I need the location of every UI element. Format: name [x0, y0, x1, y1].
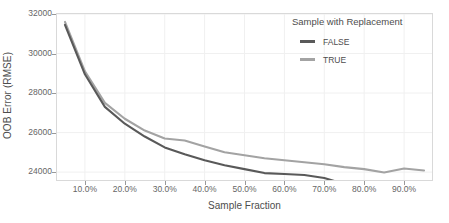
y-tick-label: 28000 [18, 88, 52, 97]
y-tick-mark [52, 172, 56, 173]
legend-item[interactable]: FALSE [292, 34, 432, 49]
y-tick-label: 24000 [18, 167, 52, 176]
x-tick-label: 70.0% [312, 184, 336, 194]
x-axis-title-label: Sample Fraction [208, 200, 281, 211]
y-tick-label: 30000 [18, 49, 52, 58]
chart-container: OOB Error (RMSE) 24000260002800030000320… [0, 0, 449, 223]
x-tick-label: 30.0% [153, 184, 177, 194]
x-tick-mark [125, 181, 126, 185]
y-axis-tick-labels: 2400026000280003000032000 [14, 0, 52, 190]
x-tick-label: 20.0% [113, 184, 137, 194]
x-tick-mark [205, 181, 206, 185]
y-tick-mark [52, 14, 56, 15]
legend-key-line-icon [300, 58, 315, 61]
legend-title: Sample with Replacement [292, 16, 432, 27]
x-tick-label: 40.0% [193, 184, 217, 194]
x-tick-label: 90.0% [392, 184, 416, 194]
y-tick-mark [52, 133, 56, 134]
y-tick-label: 32000 [18, 9, 52, 18]
legend-entries: FALSETRUE [292, 34, 432, 67]
legend: Sample with Replacement FALSETRUE [292, 16, 432, 70]
x-tick-label: 10.0% [73, 184, 97, 194]
x-tick-mark [404, 181, 405, 185]
legend-key-line-icon [300, 40, 315, 43]
y-axis-title-label: OOB Error (RMSE) [3, 51, 14, 138]
x-axis-title: Sample Fraction [56, 200, 433, 211]
y-tick-mark [52, 93, 56, 94]
x-tick-label: 60.0% [272, 184, 296, 194]
x-tick-mark [245, 181, 246, 185]
x-tick-mark [324, 181, 325, 185]
x-tick-mark [364, 181, 365, 185]
x-tick-mark [165, 181, 166, 185]
legend-item[interactable]: TRUE [292, 52, 432, 67]
x-tick-mark [284, 181, 285, 185]
y-tick-label: 26000 [18, 128, 52, 137]
x-tick-mark [85, 181, 86, 185]
legend-item-label: FALSE [323, 37, 349, 47]
legend-item-label: TRUE [323, 55, 346, 65]
x-tick-label: 50.0% [232, 184, 256, 194]
y-tick-mark [52, 54, 56, 55]
x-tick-label: 80.0% [352, 184, 376, 194]
